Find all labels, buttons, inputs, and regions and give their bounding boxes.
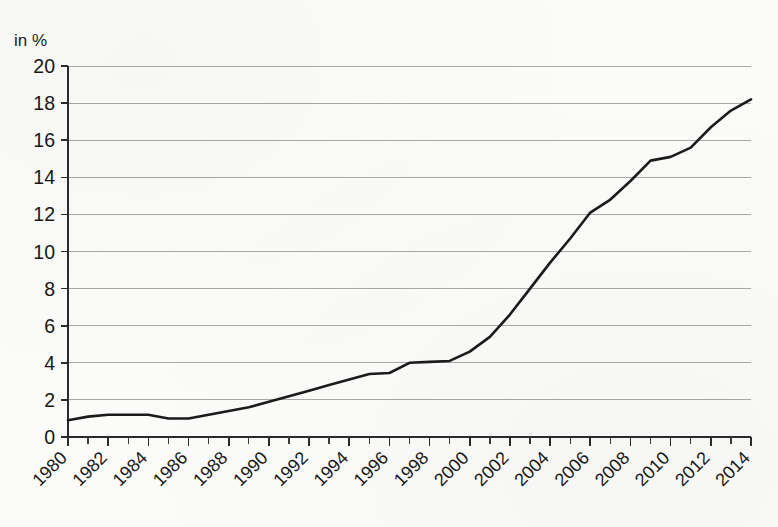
- chart-background: [0, 0, 778, 527]
- y-tick-label: 4: [44, 352, 55, 374]
- y-axis-unit-label: in %: [14, 31, 47, 50]
- y-tick-label: 8: [44, 278, 55, 300]
- chart-canvas: 02468101214161820 1980198219841986198819…: [0, 0, 778, 527]
- y-tick-label: 2: [44, 389, 55, 411]
- y-tick-label: 12: [33, 203, 55, 225]
- y-tick-label: 14: [33, 166, 55, 188]
- y-tick-label: 10: [33, 241, 55, 263]
- y-tick-label: 16: [33, 129, 55, 151]
- y-tick-label: 6: [44, 315, 55, 337]
- y-tick-label: 0: [44, 426, 55, 448]
- y-tick-label: 18: [33, 92, 55, 114]
- y-tick-label: 20: [33, 55, 55, 77]
- line-chart: 02468101214161820 1980198219841986198819…: [0, 0, 778, 527]
